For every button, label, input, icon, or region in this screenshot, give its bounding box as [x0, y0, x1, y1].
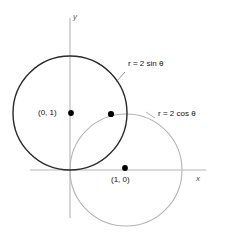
- figure-canvas: [0, 0, 226, 244]
- point-marker-1-0: [122, 165, 128, 171]
- curve-label-r-2-sin-theta: r = 2 sin θ: [128, 60, 163, 68]
- leader-line-sine: [116, 72, 125, 82]
- polar-circles-figure: y x r = 2 sin θ r = 2 cos θ (0, 1) (1, 0…: [0, 0, 226, 244]
- point-label-1-0: (1, 0): [111, 176, 130, 184]
- y-axis-label: y: [73, 13, 77, 21]
- curve-label-r-2-cos-theta: r = 2 cos θ: [158, 110, 196, 118]
- point-label-0-1: (0, 1): [38, 109, 57, 117]
- point-marker-intersection: [108, 111, 114, 117]
- x-axis-label: x: [196, 175, 200, 183]
- point-marker-0-1: [68, 110, 74, 116]
- leader-line-cosine: [146, 112, 155, 118]
